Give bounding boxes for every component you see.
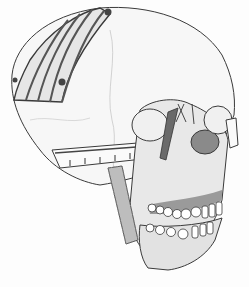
facial-skeleton bbox=[130, 100, 232, 270]
skull-illustration bbox=[0, 0, 249, 287]
illustration-canvas bbox=[0, 0, 249, 287]
